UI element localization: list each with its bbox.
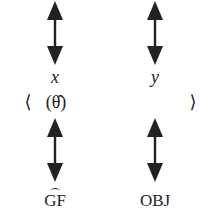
open-angle-bracket: ⟨ (24, 93, 31, 111)
double-arrow-icon (145, 0, 165, 66)
close-angle-bracket: ⟩ (189, 93, 196, 111)
variable-x-label: x (51, 68, 59, 86)
gf-hat-text: GF (44, 192, 66, 210)
double-arrow-icon (45, 0, 65, 66)
gf-label: GF (44, 192, 66, 210)
obj-label: OBJ (140, 192, 170, 210)
theta-hat-label: (θ̂) (46, 93, 67, 111)
double-arrow-icon (145, 117, 165, 183)
double-arrow-icon (45, 117, 65, 183)
variable-y-label: y (151, 68, 159, 86)
